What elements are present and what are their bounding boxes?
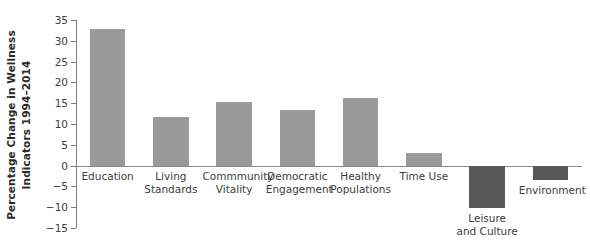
x-axis-category-label-line: Democratic <box>266 170 329 183</box>
bar[interactable] <box>469 166 504 208</box>
y-axis-tick-label: −10 <box>46 201 68 213</box>
y-axis-title-line-1: Percentage Change in Wellness <box>4 30 19 220</box>
bar[interactable] <box>90 29 125 166</box>
y-axis-tick-label: 20 <box>55 76 68 88</box>
x-axis-category-label-line: Engagement <box>266 183 329 196</box>
y-axis-tick <box>71 62 76 63</box>
y-axis-tick-label: 0 <box>61 160 68 172</box>
x-axis-category-label-line: Leisure <box>456 212 519 225</box>
x-axis-category-label: DemocraticEngagement <box>266 170 329 196</box>
zero-baseline <box>76 166 582 167</box>
x-axis-category-label-line: and Culture <box>456 225 519 238</box>
x-axis-category-label: Environment <box>519 184 582 197</box>
y-axis-tick <box>71 20 76 21</box>
y-axis-tick <box>71 124 76 125</box>
y-axis-tick <box>71 82 76 83</box>
y-axis-tick-label: 30 <box>55 35 68 47</box>
y-axis-tick-label: 10 <box>55 118 68 130</box>
y-axis-tick <box>71 41 76 42</box>
plot-area: 35302520151050−5−10−15 <box>76 20 582 228</box>
bar[interactable] <box>533 166 568 181</box>
x-axis-category-label: Leisureand Culture <box>456 212 519 238</box>
x-axis-category-label-line: Living <box>139 170 202 183</box>
bar[interactable] <box>153 117 188 166</box>
y-axis-tick-label: −5 <box>53 180 68 192</box>
y-axis-tick <box>71 207 76 208</box>
bar[interactable] <box>216 102 251 165</box>
x-axis-category-label-line: Commmunity <box>203 170 266 183</box>
bar[interactable] <box>406 153 441 165</box>
x-axis-category-label: LivingStandards <box>139 170 202 196</box>
y-axis-tick-label: 35 <box>55 14 68 26</box>
x-axis-category-label: Education <box>76 170 139 183</box>
y-axis-tick-label: 15 <box>55 97 68 109</box>
x-axis-category-label-line: Education <box>76 170 139 183</box>
x-axis-category-label-line: Environment <box>519 184 582 197</box>
x-axis-category-label-line: Vitality <box>203 183 266 196</box>
y-axis-title-line-2: Indicators 1994–2014 <box>19 30 34 220</box>
y-axis-spine <box>76 20 77 228</box>
y-axis-title: Percentage Change in Wellness Indicators… <box>0 0 38 250</box>
y-axis-tick <box>71 228 76 229</box>
x-axis-category-label: Time Use <box>392 170 455 183</box>
y-axis-tick-label: 25 <box>55 56 68 68</box>
y-axis-tick <box>71 103 76 104</box>
y-axis-tick-label: −15 <box>46 222 68 234</box>
y-axis-tick-label: 5 <box>61 139 68 151</box>
x-axis-category-label-line: Time Use <box>392 170 455 183</box>
x-axis-category-label-line: Populations <box>329 183 392 196</box>
y-axis-tick <box>71 145 76 146</box>
x-axis-category-label-line: Standards <box>139 183 202 196</box>
x-axis-category-label: HealthyPopulations <box>329 170 392 196</box>
x-axis-category-label: CommmunityVitality <box>203 170 266 196</box>
y-axis-tick <box>71 186 76 187</box>
x-axis-category-label-line: Healthy <box>329 170 392 183</box>
bar[interactable] <box>280 110 315 165</box>
bar-chart: Percentage Change in Wellness Indicators… <box>0 0 590 250</box>
bar[interactable] <box>343 98 378 166</box>
